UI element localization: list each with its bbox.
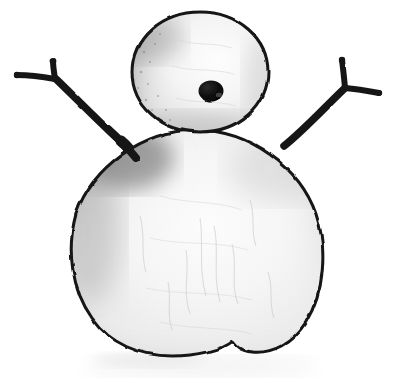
snowman-illustration: Snowman Hand-drawn sketch of a two-ball … xyxy=(0,0,394,379)
drawing-canvas: Snowman Hand-drawn sketch of a two-ball … xyxy=(0,0,394,379)
